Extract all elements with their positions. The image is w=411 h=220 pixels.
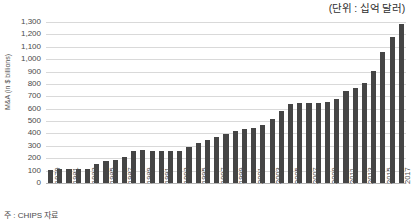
x-tick-label: 1987 [127,167,135,184]
y-tick-label: 0 [37,179,41,187]
x-tick-label: 1983 [91,167,99,184]
x-tick-label: 1997 [220,167,228,184]
y-tick-label: 1,300 [21,18,41,26]
x-tick-label: 2003 [275,167,283,184]
bar [380,52,385,183]
x-tick-label: 2005 [294,167,302,184]
y-tick-label: 300 [28,142,41,150]
x-tick-label: 1995 [201,167,209,184]
x-tick-label: 2007 [312,167,320,184]
y-axis-ticks: 01002003004005006007008009001,0001,1001,… [0,22,44,183]
x-tick-label: 1993 [183,167,191,184]
y-tick-label: 400 [28,129,41,137]
x-tick-label: 2011 [349,168,357,184]
chart-figure: (단위 : 십억 달러) M&A (in $ billions) 0100200… [0,0,411,220]
y-tick-label: 200 [28,154,41,162]
x-tick-label: 2009 [331,167,339,184]
x-tick-label: 1989 [146,167,154,184]
y-tick-label: 600 [28,105,41,113]
x-axis-ticks: 1979198119831985198719891991199319951997… [46,184,406,214]
y-tick-label: 800 [28,80,41,88]
x-tick-label: 1981 [72,167,80,184]
plot-area [46,22,406,183]
x-tick-label: 2015 [386,167,394,184]
y-tick-label: 700 [28,92,41,100]
x-tick-label: 1991 [164,167,172,184]
bar [371,71,376,183]
bar-series [46,22,406,183]
x-tick-label: 1985 [109,167,117,184]
x-tick-label: 2013 [367,167,375,184]
y-tick-label: 1,200 [21,30,41,38]
x-tick-label: 1979 [54,167,62,184]
y-tick-label: 900 [28,68,41,76]
x-tick-label: 1999 [238,167,246,184]
y-tick-label: 1,100 [21,43,41,51]
y-tick-label: 500 [28,117,41,125]
y-tick-label: 1,000 [21,55,41,63]
bar [390,37,395,183]
source-note: 주 : CHIPS 자료 [4,211,58,220]
x-tick-label: 2017 [404,167,411,184]
unit-caption: (단위 : 십억 달러) [329,2,405,15]
x-tick-label: 2001 [257,167,265,184]
bar [399,24,404,184]
y-tick-label: 100 [28,167,41,175]
